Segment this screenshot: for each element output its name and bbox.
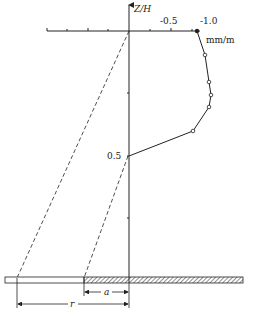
data-point <box>209 93 213 97</box>
data-point <box>207 105 211 109</box>
x-tick-label-neg-0-5: -0.5 <box>160 16 178 26</box>
data-point <box>207 80 211 84</box>
profile-series <box>129 29 213 156</box>
data-point <box>191 129 195 133</box>
y-axis <box>127 5 129 283</box>
data-point <box>203 53 207 57</box>
dimension-label-r: r <box>70 299 75 309</box>
diagram: -0.5 -1.0 mm/m Z/H 0.5 a r <box>0 0 254 319</box>
x-tick-label-neg-1-0: -1.0 <box>200 16 218 26</box>
data-point-filled <box>195 29 199 33</box>
plate-hatched-segment <box>84 277 243 283</box>
y-tick-label-0-5: 0.5 <box>107 151 122 161</box>
base-plate <box>5 277 243 283</box>
x-axis <box>47 28 200 31</box>
dimension-label-a: a <box>104 287 109 297</box>
x-axis-unit: mm/m <box>206 35 235 45</box>
dashed-line-a <box>84 156 128 278</box>
y-axis-label: Z/H <box>133 4 151 14</box>
